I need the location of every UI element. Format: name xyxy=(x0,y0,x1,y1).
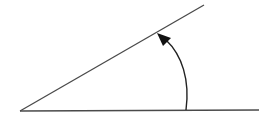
rotation-arc xyxy=(166,40,187,110)
inclined-ray xyxy=(20,5,204,111)
horizontal-ray xyxy=(20,110,259,111)
angle-diagram xyxy=(0,0,276,122)
arrowhead-icon xyxy=(157,33,171,46)
